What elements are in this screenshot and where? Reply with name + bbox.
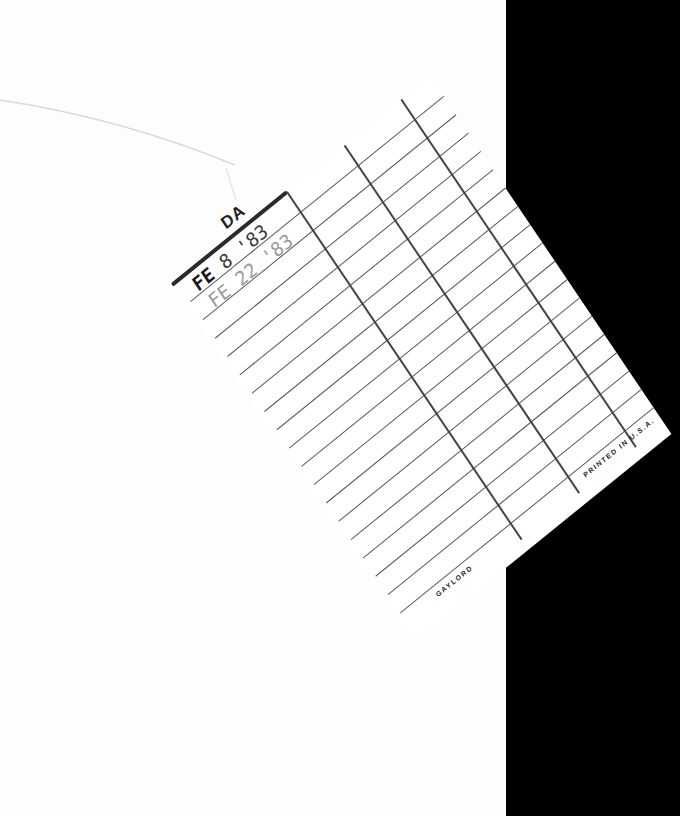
card-row-line bbox=[252, 188, 506, 394]
column-divider bbox=[286, 192, 522, 541]
card-row-line bbox=[326, 297, 580, 503]
card-row-line bbox=[338, 316, 592, 522]
card-row-line bbox=[277, 224, 531, 430]
card-row-line bbox=[264, 206, 518, 412]
card-row-line bbox=[301, 261, 555, 467]
card-row-line bbox=[351, 334, 605, 540]
card-row-line bbox=[314, 279, 568, 485]
card-row-line bbox=[289, 243, 543, 449]
